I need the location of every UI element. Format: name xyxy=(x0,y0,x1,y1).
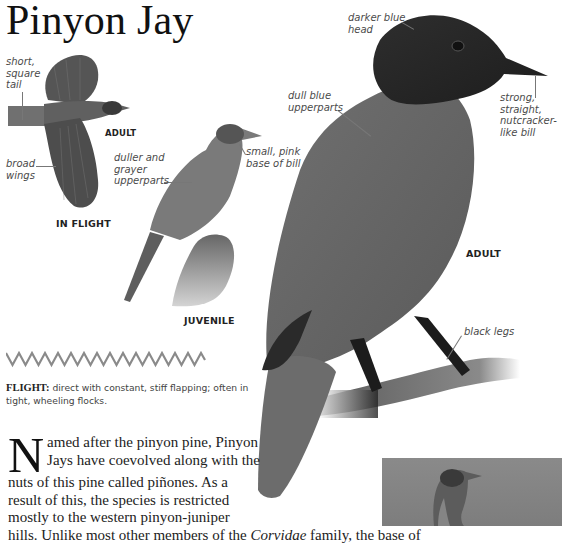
label-in-flight: IN FLIGHT xyxy=(56,218,111,229)
label-juvenile: JUVENILE xyxy=(184,315,235,326)
pinyon-jay-photo xyxy=(382,458,562,526)
label-adult: ADULT xyxy=(466,248,501,259)
body-line: Jays have coevolved along with the xyxy=(8,452,408,470)
annotation-black-legs: black legs xyxy=(464,326,514,338)
annotation-pink-bill-base: small, pink base of bill xyxy=(246,146,301,169)
flight-pattern-zigzag-icon xyxy=(6,350,206,368)
flight-description: FLIGHT: direct with constant, stiff flap… xyxy=(6,381,256,407)
body-text-segment: hills. Unlike most other members of the xyxy=(8,527,250,543)
leader-tail xyxy=(22,92,23,120)
annotation-dull-blue-upperparts: dull blue upperparts xyxy=(288,90,343,113)
leader-wings xyxy=(36,166,56,167)
annotation-nutcracker-bill: strong, straight, nutcracker- like bill xyxy=(500,92,557,138)
corvidae-italic: Corvidae xyxy=(250,527,306,543)
adult-bird xyxy=(258,15,548,498)
body-line: amed after the pinyon pine, Pinyon xyxy=(8,434,408,452)
label-adult-flight: ADULT xyxy=(105,128,136,138)
body-line-last: hills. Unlike most other members of the … xyxy=(8,527,408,544)
body-text-segment: family, the base of xyxy=(306,527,420,543)
annotation-darker-blue-head: darker blue head xyxy=(348,12,405,35)
species-description: N amed after the pinyon pine, Pinyon Jay… xyxy=(8,434,408,544)
annotation-duller-grayer-upperparts: duller and grayer upperparts xyxy=(114,152,169,187)
flight-heading: FLIGHT: xyxy=(6,382,50,393)
annotation-broad-wings: broad wings xyxy=(6,158,35,181)
annotation-short-square-tail: short, square tail xyxy=(6,56,40,91)
body-line: result of this, the species is restricte… xyxy=(8,492,408,510)
body-line: mostly to the western pinyon-juniper xyxy=(8,509,408,527)
photo-bird-silhouette xyxy=(382,458,562,526)
body-line: nuts of this pine called piñones. As a xyxy=(8,474,408,492)
drop-cap: N xyxy=(8,436,44,474)
